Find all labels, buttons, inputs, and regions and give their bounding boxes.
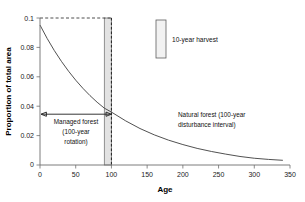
managed-forest-label-line1: Managed forest [54,118,99,126]
legend-label-10-year-harvest: 10-year harvest [172,36,218,44]
y-axis-ticks [37,18,41,165]
x-axis-title: Age [157,185,173,194]
chart-canvas: 0 0.02 0.04 0.06 0.08 0.1 0 50 100 150 2… [0,0,305,202]
x-tick-label-200: 200 [177,171,189,178]
y-tick-label-004: 0.04 [20,103,34,110]
natural-forest-label-line1: Natural forest (100-year [178,111,246,119]
y-tick-label-01: 0.1 [24,15,34,22]
chart-figure: 0 0.02 0.04 0.06 0.08 0.1 0 50 100 150 2… [0,0,305,202]
x-tick-label-250: 250 [213,171,225,178]
x-tick-label-300: 300 [248,171,260,178]
y-axis-title: Proportion of total area [4,47,13,136]
x-tick-label-150: 150 [141,171,153,178]
x-tick-label-50: 50 [72,171,80,178]
harvest-band-region [104,18,111,165]
managed-forest-label-line2: (100-year [62,128,90,136]
natural-forest-label-line2: disturbance interval) [178,121,236,129]
y-tick-label-008: 0.08 [20,44,34,51]
x-axis-ticks [40,165,290,169]
y-tick-label-006: 0.06 [20,73,34,80]
x-tick-label-100: 100 [106,171,118,178]
managed-forest-label-line3: rotation) [64,138,87,146]
x-tick-label-0: 0 [38,171,42,178]
legend-swatch-10-year-harvest [156,20,166,58]
y-tick-label-0: 0 [30,161,34,168]
x-tick-label-350: 350 [284,171,296,178]
y-tick-label-002: 0.02 [20,132,34,139]
